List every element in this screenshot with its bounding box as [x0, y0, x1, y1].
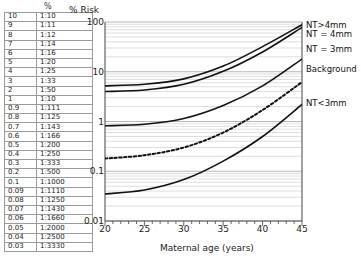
plot-canvas — [0, 0, 361, 260]
curves — [105, 25, 302, 194]
risk-chart: % Risk Maternal age (years) 1001010.10.0… — [0, 0, 361, 260]
x-axis-ticks — [105, 221, 302, 226]
curve-nt-3mm — [105, 59, 302, 126]
curve-background — [105, 82, 302, 158]
curve-nt-3mm — [105, 104, 302, 193]
